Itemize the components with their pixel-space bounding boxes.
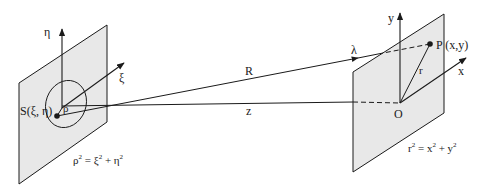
eq-plus: + (436, 142, 448, 154)
r-distance-label: R (245, 64, 253, 78)
observation-equation: r2 = x2 + y2 (408, 141, 457, 154)
observation-point (427, 41, 433, 47)
eq-exponent: 2 (453, 141, 457, 149)
xi-label: ξ (119, 71, 125, 85)
eta-label: η (44, 25, 50, 39)
eq-plus: + (102, 154, 114, 166)
diffraction-diagram: η ξ S(ξ, η) ρ ρ2 = ξ2 + η2 R z λ y x O P… (0, 0, 482, 190)
z-distance-label: z (246, 104, 251, 118)
source-equation: ρ2 = ξ2 + η2 (73, 153, 124, 167)
eq-sign: = (415, 142, 427, 154)
y-label: y (388, 11, 394, 25)
eq-exponent: 2 (120, 153, 124, 161)
x-label: x (458, 64, 464, 78)
eq-sign: = (82, 154, 94, 166)
rho-label: ρ (63, 102, 69, 114)
origin-label: O (394, 107, 403, 121)
wavelength-label: λ (351, 43, 357, 57)
observation-point-label: P (x,y) (436, 38, 468, 52)
source-point-label: S(ξ, η) (20, 104, 52, 118)
r-radius-label: r (419, 64, 423, 76)
